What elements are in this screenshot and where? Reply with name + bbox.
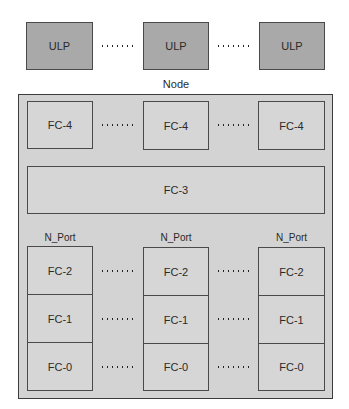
fc1-box-2: FC-1: [143, 295, 209, 344]
ulp-box-3: ULP: [259, 22, 325, 70]
dotted-connector: [216, 124, 252, 126]
ulp-box-2: ULP: [143, 22, 209, 70]
nport-label-3: N_Port: [258, 232, 325, 243]
fc1-box-3: FC-1: [258, 295, 325, 344]
fc2-label: FC-2: [48, 265, 72, 277]
fc1-label: FC-1: [164, 314, 188, 326]
ulp-box-1: ULP: [26, 22, 93, 70]
dotted-connector: [100, 318, 136, 320]
node-label: Node: [150, 78, 202, 90]
dotted-connector: [100, 366, 136, 368]
fc0-label: FC-0: [279, 361, 303, 373]
fc2-box-3: FC-2: [258, 247, 325, 296]
nport-label-1: N_Port: [27, 232, 93, 243]
fc1-label: FC-1: [48, 313, 72, 325]
dotted-connector: [100, 45, 136, 47]
dotted-connector: [216, 270, 252, 272]
fc0-box-1: FC-0: [27, 342, 93, 391]
fc4-box-3: FC-4: [258, 101, 325, 150]
dotted-connector: [100, 270, 136, 272]
fc3-label: FC-3: [164, 184, 188, 196]
dotted-connector: [100, 124, 136, 126]
dotted-connector: [216, 318, 252, 320]
fc4-box-1: FC-4: [27, 101, 93, 149]
fc1-label: FC-1: [279, 314, 303, 326]
fc2-label: FC-2: [164, 266, 188, 278]
ulp-label: ULP: [165, 40, 186, 52]
fc0-box-2: FC-0: [143, 343, 209, 391]
dotted-connector: [216, 45, 252, 47]
fc2-box-1: FC-2: [27, 246, 93, 295]
fc0-label: FC-0: [48, 361, 72, 373]
fc2-box-2: FC-2: [143, 247, 209, 296]
fc4-label: FC-4: [279, 120, 303, 132]
fc0-box-3: FC-0: [258, 343, 325, 391]
fc4-label: FC-4: [48, 119, 72, 131]
nport-label-2: N_Port: [143, 232, 209, 243]
dotted-connector: [216, 366, 252, 368]
fc2-label: FC-2: [279, 266, 303, 278]
fc4-box-2: FC-4: [143, 101, 209, 150]
ulp-label: ULP: [49, 40, 70, 52]
fc0-label: FC-0: [164, 361, 188, 373]
fc1-box-1: FC-1: [27, 294, 93, 343]
fc3-box: FC-3: [27, 166, 325, 214]
fc4-label: FC-4: [164, 120, 188, 132]
ulp-label: ULP: [281, 40, 302, 52]
